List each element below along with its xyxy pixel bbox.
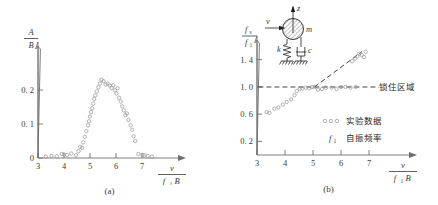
data-point xyxy=(78,145,81,148)
data-point xyxy=(277,106,280,109)
data-point xyxy=(116,87,119,90)
data-point xyxy=(97,86,100,89)
data-point xyxy=(129,124,132,127)
panel-b-caption: (b) xyxy=(219,184,438,194)
data-point xyxy=(119,100,122,103)
legend-symbol-f1: f xyxy=(329,133,333,143)
data-point xyxy=(293,93,296,96)
inset-ground-spring xyxy=(280,61,294,65)
chart-b-y-axis-label: f s f 1 xyxy=(242,24,257,48)
chart-b-trend-lines xyxy=(258,52,378,87)
data-point xyxy=(112,84,115,87)
data-point xyxy=(77,150,80,153)
chart-b-ylabel-num-f: f xyxy=(245,24,249,34)
data-point xyxy=(95,90,98,93)
chart-b-x-axis-label: v f 1 B xyxy=(389,160,417,184)
inset-z-label: z xyxy=(296,3,301,13)
data-point xyxy=(320,87,323,90)
chart-a-xlabel-den-f: f xyxy=(163,176,167,185)
chart-a-xtick-5: 5 xyxy=(88,161,92,171)
chart-a-svg: 0 0. 1 0. 2 3 4 5 6 7 A B xyxy=(0,0,219,185)
data-point xyxy=(304,86,307,89)
chart-a-ylabel-den: B xyxy=(28,40,33,50)
data-point xyxy=(115,92,118,95)
inset-ground-damper xyxy=(294,61,308,65)
chart-a-ytick-0: 0 xyxy=(30,153,34,163)
data-point xyxy=(130,128,133,131)
data-point xyxy=(146,154,149,157)
data-point xyxy=(94,94,97,97)
chart-a-scatter-series xyxy=(44,78,153,158)
inset-oscillator-diagram: z v m k c xyxy=(265,3,312,65)
figure-container: 0 0. 1 0. 2 3 4 5 6 7 A B xyxy=(0,0,438,205)
inset-mass-body xyxy=(283,19,304,40)
inset-damper-label: c xyxy=(308,45,312,55)
chart-b-ytick-10: 1. 0 xyxy=(240,82,253,92)
chart-a-xlabel-den-B: B xyxy=(174,176,179,185)
chart-b-xlabel-den-f: f xyxy=(394,173,398,183)
data-point xyxy=(134,139,137,142)
data-point xyxy=(330,86,333,89)
chart-b-ylabel-den-sub: 1 xyxy=(250,42,253,48)
data-point xyxy=(86,124,89,127)
data-point xyxy=(351,59,354,62)
chart-b-ytick-02: 0. 2 xyxy=(240,136,253,146)
inset-v-label: v xyxy=(266,16,270,26)
chart-b-svg: 0. 2 0. 6 1. 0 1. 4 3 4 5 6 7 f xyxy=(219,0,438,185)
data-point xyxy=(82,141,85,144)
chart-b-xtick-3: 3 xyxy=(255,158,259,168)
chart-a-xtick-6: 6 xyxy=(114,161,118,171)
panel-a-caption: (a) xyxy=(0,186,219,196)
data-point xyxy=(281,103,284,106)
data-point xyxy=(117,96,120,99)
chart-b-xtick-6: 6 xyxy=(339,158,343,168)
chart-b-xtick-5: 5 xyxy=(311,158,315,168)
chart-b-ytick-06: 0. 6 xyxy=(240,109,253,119)
data-point xyxy=(74,154,77,157)
data-point xyxy=(273,107,276,110)
data-point xyxy=(87,120,90,123)
data-point xyxy=(121,105,124,108)
chart-a-ylabel-num: A xyxy=(27,27,34,37)
chart-b-xtick-7: 7 xyxy=(367,158,371,168)
chart-b-ytick-14: 1. 4 xyxy=(240,55,254,65)
data-point xyxy=(81,146,84,149)
data-point xyxy=(90,107,93,110)
data-point xyxy=(55,155,58,158)
panel-a: 0 0. 1 0. 2 3 4 5 6 7 A B xyxy=(0,0,219,205)
chart-a-xtick-7: 7 xyxy=(140,161,144,171)
data-point xyxy=(92,97,95,100)
data-point xyxy=(83,135,86,138)
chart-b-xlabel-num: v xyxy=(401,160,405,170)
data-point xyxy=(88,115,91,118)
chart-a-xtick-4: 4 xyxy=(62,161,67,171)
data-point xyxy=(289,98,292,101)
inset-spring-label: k xyxy=(277,44,281,54)
data-point xyxy=(362,55,365,58)
chart-b-xlabel-den-B: B xyxy=(405,173,410,183)
chart-a-ytick-1: 0. 1 xyxy=(21,119,34,129)
chart-a-ytick-2: 0. 2 xyxy=(21,85,34,95)
legend-marker-circles xyxy=(323,119,338,122)
data-point xyxy=(89,110,92,113)
data-point xyxy=(85,129,88,132)
chart-b-lockin-label: 锁住区域 xyxy=(379,82,415,92)
data-point xyxy=(132,135,135,138)
chart-b-ylabel-num-sub: s xyxy=(250,29,252,35)
data-point xyxy=(364,50,367,53)
data-point xyxy=(122,109,125,112)
data-point xyxy=(70,152,73,155)
chart-a-xlabel-den-sub: 1 xyxy=(170,181,173,186)
data-point xyxy=(50,154,53,157)
chart-b-legend: 实验数据 f 1 自振频率 xyxy=(323,116,382,144)
chart-a-x-axis-label: v f 1 B xyxy=(158,163,186,185)
chart-a-xlabel-num: v xyxy=(170,163,174,173)
data-point xyxy=(285,100,288,103)
panel-b: 0. 2 0. 6 1. 0 1. 4 3 4 5 6 7 f xyxy=(219,0,438,205)
chart-a-x-ticks: 3 4 5 6 7 xyxy=(36,153,144,171)
chart-a-axes xyxy=(36,42,186,161)
chart-b-xlabel-den-sub: 1 xyxy=(401,178,404,184)
data-point xyxy=(127,118,130,121)
inset-mass-label: m xyxy=(306,24,312,34)
chart-b-ylabel-den-f: f xyxy=(245,37,249,47)
